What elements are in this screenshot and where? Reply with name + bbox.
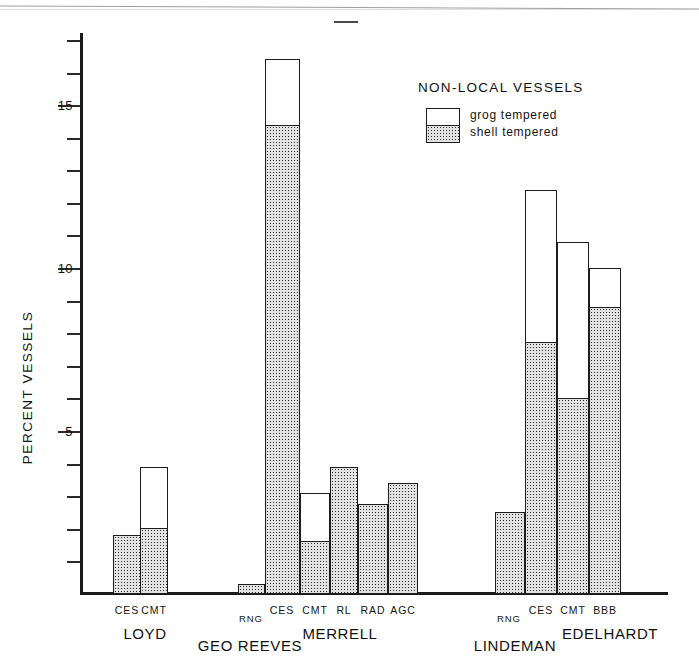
bar-merrell-ces — [265, 59, 300, 594]
bar-segment-shell — [330, 467, 358, 594]
xtick-loyd-cmt: CMT — [134, 604, 174, 616]
bar-segment-shell — [238, 584, 265, 594]
legend-swatch-shell — [427, 126, 459, 143]
chart-legend: NON-LOCAL VESSELS grog tempered shell te… — [418, 80, 668, 141]
bar-lindeman-rng — [495, 512, 525, 594]
bar-segment-grog — [140, 467, 168, 529]
bar-segment-shell — [300, 541, 330, 594]
bar-merrell-rl — [330, 467, 358, 594]
legend-entries: grog tempered shell tempered — [418, 107, 668, 141]
bar-chart: PERCENT VESSELS 15 10 5 — [0, 0, 699, 658]
bar-segment-shell — [113, 535, 141, 594]
y-minor-tick-13 — [67, 170, 80, 172]
legend-label-shell: shell tempered — [470, 124, 668, 141]
bar-edelhardt-bbb — [589, 268, 621, 594]
y-axis-title: PERCENT VESSELS — [20, 303, 35, 473]
bar-segment-shell — [525, 342, 557, 594]
y-minor-tick-17 — [67, 40, 80, 42]
xtick-merrell-agc: AGC — [383, 604, 423, 616]
bar-segment-grog — [589, 268, 621, 308]
group-label-loyd: LOYD — [100, 625, 190, 642]
bar-segment-grog — [265, 59, 300, 126]
bar-segment-shell — [388, 483, 418, 594]
xtick-edelhardt-bbb: BBB — [585, 604, 625, 616]
y-minor-tick-3 — [67, 496, 80, 498]
bar-loyd-cmt — [140, 467, 168, 594]
bar-edelhardt-ces — [525, 190, 557, 594]
bar-georeeves-rng — [238, 584, 265, 594]
y-minor-tick-12 — [67, 203, 80, 205]
y-minor-tick-7 — [67, 366, 80, 368]
bar-merrell-agc — [388, 483, 418, 594]
bar-edelhardt-cmt — [557, 242, 589, 594]
bar-segment-shell — [495, 512, 525, 594]
y-minor-tick-6 — [67, 398, 80, 400]
y-axis-line — [80, 33, 83, 595]
y-tick-label-10: 10 — [33, 261, 73, 276]
bar-merrell-rad — [358, 504, 388, 594]
y-minor-tick-1 — [67, 561, 80, 563]
legend-swatch — [426, 108, 460, 143]
legend-label-grog: grog tempered — [470, 107, 668, 124]
bar-segment-shell — [557, 398, 589, 594]
bar-segment-grog — [525, 190, 557, 343]
y-minor-tick-9 — [67, 301, 80, 303]
bar-loyd-ces — [113, 535, 141, 594]
y-tick-label-5: 5 — [33, 424, 73, 439]
y-minor-tick-14 — [67, 138, 80, 140]
y-minor-tick-8 — [67, 333, 80, 335]
group-label-merrell: MERRELL — [285, 625, 395, 642]
group-label-edelhardt: EDELHARDT — [540, 625, 680, 642]
y-minor-tick-2 — [67, 529, 80, 531]
bar-segment-grog — [300, 493, 330, 542]
y-minor-tick-4 — [67, 464, 80, 466]
bar-segment-shell — [265, 125, 300, 594]
y-minor-tick-11 — [67, 235, 80, 237]
bar-merrell-cmt — [300, 493, 330, 594]
legend-title: NON-LOCAL VESSELS — [418, 80, 668, 95]
bar-segment-grog — [557, 242, 589, 399]
y-minor-tick-16 — [67, 73, 80, 75]
bar-segment-shell — [140, 528, 168, 594]
y-tick-label-15: 15 — [33, 98, 73, 113]
bar-segment-shell — [358, 504, 388, 594]
bar-segment-shell — [589, 307, 621, 594]
legend-swatch-grog — [427, 109, 459, 126]
